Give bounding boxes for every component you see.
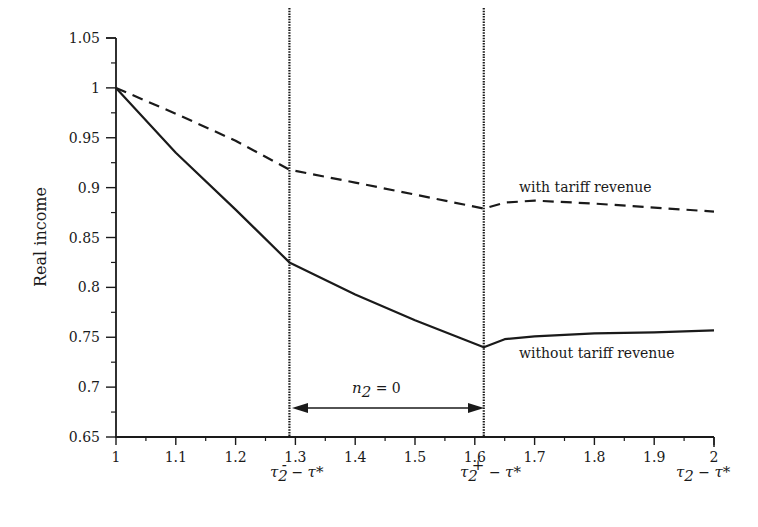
- x-tick-label: 1.3: [284, 449, 306, 465]
- y-tick-label: 0.65: [69, 429, 100, 445]
- x-label-tau2: τ2 − τ*: [676, 463, 731, 485]
- region-double-arrow: [292, 403, 484, 413]
- series-lines: [116, 88, 714, 347]
- x-tick-label: 1.4: [344, 449, 366, 465]
- x-tick-label: 1: [112, 449, 121, 465]
- label-with-tariff-revenue: with tariff revenue: [519, 179, 652, 195]
- region-var: n: [352, 379, 362, 397]
- region-eq: = 0: [371, 380, 401, 396]
- y-tick-label: 0.7: [78, 379, 100, 395]
- x-tick-label: 1.2: [224, 449, 246, 465]
- region-sub: 2: [361, 383, 372, 401]
- axes: 11.11.21.31.41.51.61.71.81.921.0510.950.…: [69, 30, 719, 465]
- y-tick-label: 0.75: [69, 329, 100, 345]
- label-without-tariff-revenue: without tariff revenue: [519, 345, 675, 361]
- line-chart: 11.11.21.31.41.51.61.71.81.921.0510.950.…: [0, 0, 758, 527]
- y-axis-title: Real income: [31, 187, 50, 287]
- y-tick-label: 0.85: [69, 230, 100, 246]
- y-tick-label: 0.8: [78, 279, 100, 295]
- vertical-reference-lines: [289, 8, 483, 437]
- y-tick-label: 1.05: [69, 30, 100, 46]
- x-tick-label: 1.1: [165, 449, 187, 465]
- y-tick-label: 0.95: [69, 130, 100, 146]
- x-tick-label: 1.7: [523, 449, 545, 465]
- x-tick-label: 1.5: [404, 449, 426, 465]
- y-tick-label: 0.9: [78, 180, 100, 196]
- x-tick-label: 1.9: [643, 449, 665, 465]
- y-tick-label: 1: [91, 80, 100, 96]
- x-tick-label: 1.8: [583, 449, 605, 465]
- region-label-n2-zero: n2 = 0: [352, 379, 401, 401]
